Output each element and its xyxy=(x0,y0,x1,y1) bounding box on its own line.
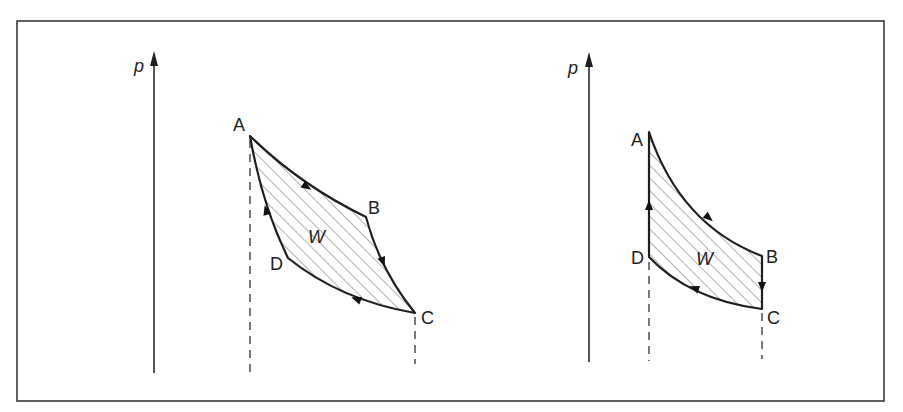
left-label-A: A xyxy=(233,115,245,135)
left-label-C: C xyxy=(421,308,434,328)
left-axis-label: p xyxy=(133,56,144,76)
right-pv-diagram: p A B C D W xyxy=(567,52,780,362)
right-label-C: C xyxy=(767,308,780,328)
right-work-label: W xyxy=(696,249,715,269)
right-label-B: B xyxy=(766,247,778,267)
right-work-area xyxy=(649,132,762,309)
right-label-A: A xyxy=(631,130,643,150)
pv-diagrams-figure: p A B C D W p A xyxy=(0,0,903,412)
right-axis-label: p xyxy=(567,58,578,78)
figure-frame xyxy=(17,21,884,401)
left-label-B: B xyxy=(368,198,380,218)
left-p-axis: p xyxy=(133,51,158,373)
left-pv-diagram: p A B C D W xyxy=(133,51,434,373)
axis-arrow-icon xyxy=(585,52,593,67)
right-label-D: D xyxy=(631,248,644,268)
left-label-D: D xyxy=(270,254,283,274)
right-p-axis: p xyxy=(567,52,593,362)
left-work-label: W xyxy=(308,227,327,247)
axis-arrow-icon xyxy=(150,51,158,66)
